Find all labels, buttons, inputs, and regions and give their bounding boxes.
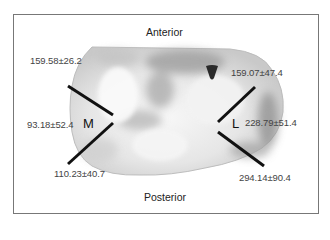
posterior-label: Posterior	[144, 191, 186, 203]
lateral-middle-value: 228.79±51.4	[245, 117, 297, 128]
lateral-posterior-value: 294.14±90.4	[239, 172, 291, 183]
medial-posterior-value: 110.23±40.7	[54, 168, 105, 179]
medial-anterior-value: 159.58±26.2	[30, 55, 82, 66]
medial-middle-value: 93.18±52.4	[27, 119, 73, 130]
medial-region-label: M	[83, 116, 94, 131]
anterior-label: Anterior	[146, 26, 183, 38]
lateral-anterior-value: 159.07±47.4	[231, 67, 283, 78]
lateral-region-label: L	[232, 116, 239, 131]
